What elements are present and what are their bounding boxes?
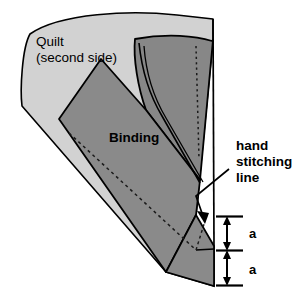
binding-label: Binding <box>109 130 159 145</box>
quilt-label-line2: (second side) <box>36 50 117 65</box>
dashed-miter-guide <box>196 249 214 250</box>
hand-stitching-label-line3: line <box>236 170 260 185</box>
diagram-canvas: Quilt (second side) Binding hand stitchi… <box>0 0 305 303</box>
dimension-label-a-lower: a <box>249 262 257 277</box>
quilt-label-line1: Quilt <box>36 34 64 49</box>
hand-stitching-label-line2: stitching <box>236 154 292 169</box>
quilt-binding-diagram: Quilt (second side) Binding hand stitchi… <box>0 0 305 303</box>
quilt-right-edge <box>213 19 214 246</box>
dimension-label-a-upper: a <box>249 226 257 241</box>
hand-stitching-label-line1: hand <box>236 138 268 153</box>
